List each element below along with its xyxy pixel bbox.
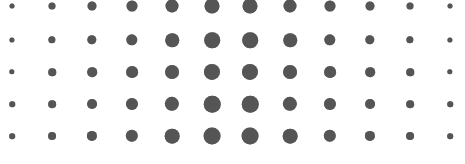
dot <box>48 100 56 108</box>
dot <box>87 99 97 109</box>
dot <box>204 96 221 113</box>
dot <box>242 64 258 80</box>
dot <box>9 101 15 107</box>
dot <box>324 34 335 45</box>
dot <box>283 33 297 47</box>
dot-pattern-canvas <box>0 0 465 164</box>
dot <box>127 1 138 12</box>
dot <box>325 1 336 12</box>
dot <box>204 64 220 80</box>
dot <box>48 36 55 43</box>
dot <box>406 100 414 108</box>
dot <box>48 68 56 76</box>
dot <box>324 66 336 78</box>
dot <box>48 132 56 140</box>
dot <box>283 97 297 111</box>
dot <box>9 133 15 139</box>
dot <box>447 69 452 74</box>
dot <box>447 101 453 107</box>
dot <box>49 3 56 10</box>
dot <box>204 32 220 48</box>
dot <box>126 34 137 45</box>
dot <box>283 129 298 144</box>
dot <box>448 4 453 9</box>
dot <box>126 98 138 110</box>
dot <box>242 96 259 113</box>
dot <box>165 65 179 79</box>
dot <box>406 68 414 76</box>
dot <box>365 99 375 109</box>
dot <box>365 35 374 44</box>
dot <box>365 131 375 141</box>
dot <box>243 0 258 14</box>
dot <box>88 2 97 11</box>
dot <box>406 132 414 140</box>
dot <box>447 133 453 139</box>
dot <box>126 66 138 78</box>
dot <box>242 32 258 48</box>
dot <box>165 129 180 144</box>
dot <box>165 33 179 47</box>
dot <box>242 128 259 145</box>
dot <box>324 98 336 110</box>
dot <box>87 35 96 44</box>
dot <box>126 130 138 142</box>
dot <box>10 4 15 9</box>
dot <box>284 0 297 13</box>
dot <box>166 0 179 13</box>
dot <box>324 130 336 142</box>
dot <box>366 2 375 11</box>
dot <box>365 67 375 77</box>
dot <box>9 37 14 42</box>
dot <box>406 36 413 43</box>
dot <box>283 65 297 79</box>
dot <box>87 131 97 141</box>
dot <box>447 37 452 42</box>
dot <box>204 128 221 145</box>
dot <box>407 3 414 10</box>
dot <box>87 67 97 77</box>
dot <box>9 69 14 74</box>
dot <box>165 97 179 111</box>
dot <box>205 0 220 14</box>
